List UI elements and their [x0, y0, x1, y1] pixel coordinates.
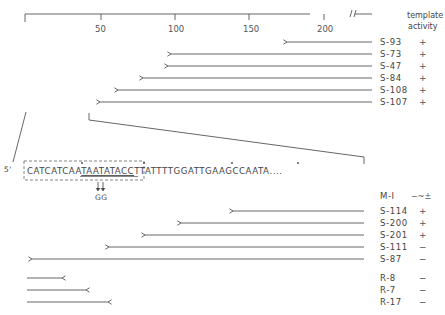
clone-name: S-73 — [380, 49, 402, 59]
mutation-label: GG — [95, 193, 108, 202]
scale-label-50: 50 — [95, 24, 106, 34]
sequence-rest: ATTTTGGATTGAAGCCAATA — [145, 166, 269, 176]
zoom-expansion-lines — [13, 112, 364, 164]
clone-row: R-8 − — [27, 273, 427, 283]
clone-activity: + — [419, 218, 427, 228]
clone-name: R-7 — [380, 285, 396, 295]
clone-activity: + — [419, 97, 427, 107]
zoom-line-left — [13, 112, 26, 162]
clone-activity: + — [419, 49, 427, 59]
clone-activity: + — [419, 230, 427, 240]
sequence-underlined: TAATATACC — [80, 166, 134, 176]
clone-activity: − — [419, 285, 427, 295]
clone-name: S-200 — [380, 218, 408, 228]
marked-base-dot — [297, 162, 299, 164]
marked-base-dot — [231, 162, 233, 164]
sequence-ellipsis: .... — [269, 166, 282, 176]
dna-sequence: 5' CATCATCAATAATATACCTTATTTTGGATTGAAGCCA… — [4, 161, 299, 202]
clone-activity: − — [419, 242, 427, 252]
sequence-boxed-pre: CATCATCAA — [27, 166, 81, 176]
clone-activity: + — [419, 37, 427, 47]
zoom-line-right — [89, 113, 364, 164]
scale-label-100: 100 — [168, 24, 184, 34]
scale-label-200: 200 — [317, 24, 333, 34]
clone-name: S-84 — [380, 73, 402, 83]
clone-name: S-114 — [380, 206, 408, 216]
marked-base-dot — [81, 162, 83, 164]
lower-clone-list: S-114 + S-200 + S-201 + S-111 − S-87 − — [32, 206, 427, 264]
clone-row: R-7 − — [27, 285, 427, 295]
clone-row: S-47 + — [168, 61, 427, 71]
header-activity: activity — [408, 22, 438, 31]
mutant-name: M-I — [380, 191, 395, 201]
arrow-down-icon — [96, 188, 100, 191]
sequence-boxed-post: TT — [133, 166, 146, 176]
clone-activity: − — [419, 273, 427, 283]
clone-row: S-114 + — [233, 206, 427, 216]
arrow-down-icon — [101, 188, 105, 191]
clone-row: S-108 + — [118, 85, 427, 95]
clone-activity: + — [419, 73, 427, 83]
clone-name: S-107 — [380, 97, 408, 107]
reverse-clone-list: R-8 − R-7 − R-17 − — [27, 273, 427, 307]
clone-row: R-17 − — [27, 297, 427, 307]
clone-name: S-87 — [380, 254, 402, 264]
scale-label-150: 150 — [243, 24, 259, 34]
marked-base-dot — [143, 162, 145, 164]
clone-activity: − — [419, 254, 427, 264]
clone-row: S-200 + — [181, 218, 427, 228]
scale-bar: 50 100 150 200 — [25, 10, 372, 34]
clone-row: S-87 − — [32, 254, 427, 264]
clone-row: S-73 + — [171, 49, 427, 59]
clone-activity: + — [419, 206, 427, 216]
deletion-map-diagram: 50 100 150 200 template activity S-93 + … — [0, 0, 445, 315]
clone-name: S-93 — [380, 37, 402, 47]
clone-name: S-201 — [380, 230, 408, 240]
header-template: template — [407, 11, 443, 20]
clone-name: R-8 — [380, 273, 396, 283]
clone-name: S-111 — [380, 242, 408, 252]
clone-row: S-84 + — [143, 73, 427, 83]
five-prime-label: 5' — [4, 165, 12, 174]
clone-name: S-108 — [380, 85, 408, 95]
scale-break-icon — [350, 10, 356, 17]
clone-name: S-47 — [380, 61, 402, 71]
clone-activity: − — [419, 297, 427, 307]
clone-activity: + — [419, 85, 427, 95]
mutant-activity: −~± — [411, 192, 431, 201]
sequence-text: CATCATCAATAATATACCTTATTTTGGATTGAAGCCAATA… — [27, 166, 283, 176]
clone-activity: + — [419, 61, 427, 71]
clone-row: S-93 + — [287, 37, 427, 47]
clone-name: R-17 — [380, 297, 402, 307]
clone-row: S-201 + — [145, 230, 427, 240]
upper-clone-list: S-93 + S-73 + S-47 + S-84 + S-108 + S-10… — [100, 37, 427, 107]
clone-row: S-107 + — [100, 97, 427, 107]
clone-row: S-111 − — [109, 242, 427, 252]
